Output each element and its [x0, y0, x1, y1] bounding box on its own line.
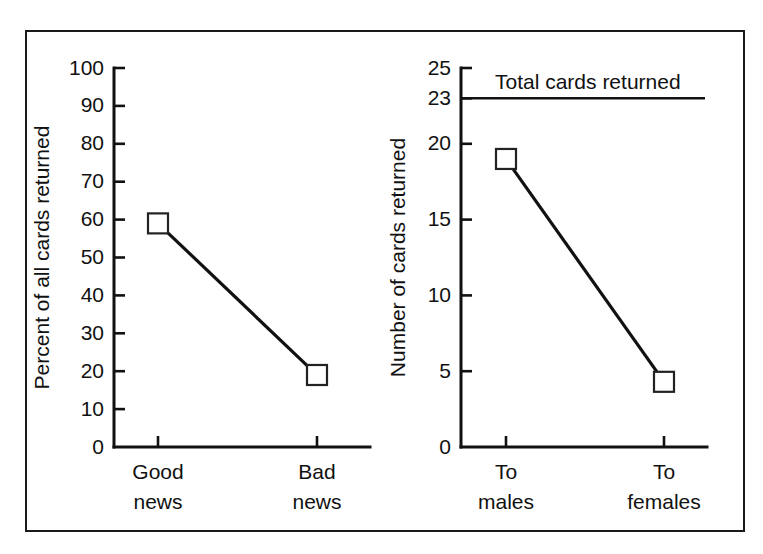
- reference-line-label: Total cards returned: [495, 70, 681, 93]
- y-tick-label: 20: [81, 359, 104, 382]
- data-point-marker: [654, 372, 674, 392]
- series-line: [512, 167, 658, 374]
- y-tick-label: 70: [81, 169, 104, 192]
- y-tick-label: 15: [428, 207, 451, 230]
- y-tick-label: 60: [81, 207, 104, 230]
- y-tick-label: 0: [92, 435, 104, 458]
- chart-panel-left: 0102030405060708090100GoodnewsBadnewsPer…: [27, 32, 387, 530]
- data-point-marker: [307, 365, 327, 385]
- y-tick-label: 40: [81, 283, 104, 306]
- y-axis-title: Number of cards returned: [387, 138, 409, 377]
- y-tick-label: 10: [428, 283, 451, 306]
- x-category-label: Bad: [298, 460, 335, 483]
- y-tick-label: 80: [81, 131, 104, 154]
- y-tick-label: 23: [428, 86, 451, 109]
- y-tick-label: 20: [428, 131, 451, 154]
- x-category-label: females: [627, 490, 701, 513]
- x-category-label: news: [292, 490, 341, 513]
- chart-panel-right: 051015202325Total cards returnedTomalesT…: [387, 32, 743, 530]
- y-tick-label: 10: [81, 397, 104, 420]
- y-tick-label: 5: [439, 359, 451, 382]
- figure-frame: 0102030405060708090100GoodnewsBadnewsPer…: [25, 30, 745, 532]
- series-line: [165, 230, 310, 368]
- y-tick-label: 50: [81, 245, 104, 268]
- x-category-label: males: [478, 490, 534, 513]
- y-tick-label: 25: [428, 56, 451, 79]
- x-category-label: To: [495, 460, 517, 483]
- y-tick-label: 30: [81, 321, 104, 344]
- y-tick-label: 0: [439, 435, 451, 458]
- x-category-label: news: [133, 490, 182, 513]
- x-category-label: Good: [132, 460, 183, 483]
- data-point-marker: [148, 213, 168, 233]
- figure-root: 0102030405060708090100GoodnewsBadnewsPer…: [0, 0, 763, 554]
- y-axis-title: Percent of all cards returned: [30, 126, 53, 390]
- data-point-marker: [496, 149, 516, 169]
- y-tick-label: 90: [81, 93, 104, 116]
- y-tick-label: 100: [69, 56, 104, 79]
- x-category-label: To: [653, 460, 675, 483]
